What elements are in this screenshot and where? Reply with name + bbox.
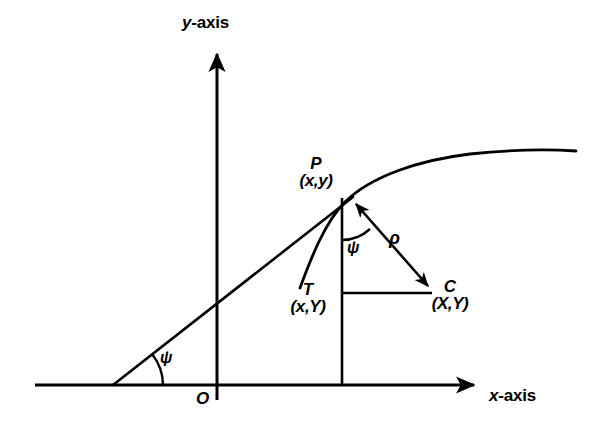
point-name-C: C	[414, 278, 486, 295]
x-axis-label: x-axis	[489, 387, 536, 405]
point-name-T: T	[275, 281, 341, 298]
y-axis-label: y-axis	[182, 14, 229, 32]
x-axis-label-var: x	[489, 386, 498, 405]
x-axis-label-rest: -axis	[498, 386, 536, 405]
y-axis-label-var: y	[182, 13, 191, 32]
point-label-C: C (X,Y)	[414, 278, 486, 314]
rho-label: ρ	[389, 229, 400, 248]
y-axis-label-rest: -axis	[191, 13, 229, 32]
point-label-T: T (x,Y)	[275, 281, 341, 317]
point-coords-C: (X,Y)	[414, 295, 486, 314]
diagram-canvas	[0, 0, 605, 434]
point-coords-T: (x,Y)	[275, 298, 341, 317]
point-name-P: P	[273, 155, 359, 172]
curvature-diagram: y-axis x-axis O P (x,y) T (x,Y) C (X,Y) …	[0, 0, 605, 434]
point-label-P: P (x,y)	[273, 155, 359, 191]
psi-label-point: ψ	[347, 240, 359, 257]
origin-label: O	[196, 390, 209, 408]
point-coords-P: (x,y)	[273, 172, 359, 191]
psi-label-axis: ψ	[160, 350, 172, 367]
